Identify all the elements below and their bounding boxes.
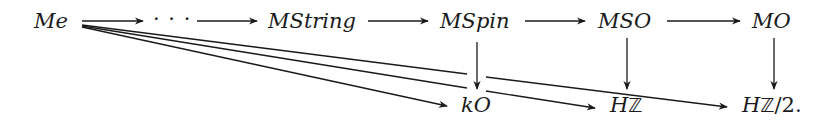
hz-integers-symbol: ℤ: [628, 94, 642, 116]
arrows-layer: [0, 0, 835, 128]
node-mstring: MString: [268, 11, 356, 32]
node-hz-mod2: Hℤ/2.: [742, 95, 802, 116]
arrow-me-to-hz2-part2: [486, 77, 727, 107]
node-mso: MSO: [598, 11, 651, 32]
arrow-me-to-ko: [82, 27, 447, 106]
hz2-integers-symbol: ℤ: [760, 94, 774, 116]
arrow-me-to-hz-part2: [486, 91, 595, 108]
node-mspin: MSpin: [440, 11, 510, 32]
node-hz: Hℤ: [610, 95, 642, 116]
hz-h: H: [610, 93, 628, 117]
node-ellipsis: · · ·: [153, 9, 191, 30]
hz2-h: H: [742, 93, 760, 117]
commutative-diagram: Me · · · MString MSpin MSO MO kO Hℤ Hℤ/2…: [0, 0, 835, 128]
arrow-me-to-hz-part1: [82, 26, 467, 88]
node-ko: kO: [461, 95, 491, 116]
hz2-quotient: /2.: [774, 93, 801, 117]
node-me: Me: [34, 11, 68, 32]
node-mo: MO: [752, 11, 791, 32]
